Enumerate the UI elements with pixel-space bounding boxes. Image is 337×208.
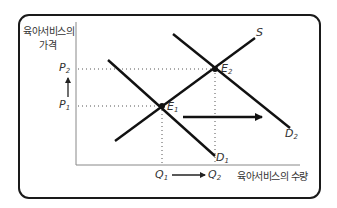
price-label-p1: P1: [59, 98, 70, 112]
equilibrium-label-e1: E1: [167, 100, 178, 114]
quantity-label-q2: Q2: [208, 168, 221, 182]
y-axis-label-line1: 육아서비스의: [23, 23, 74, 38]
equilibrium-label-e2: E2: [221, 62, 232, 76]
demand-curve-d1-label: D1: [216, 151, 229, 165]
supply-curve: [115, 38, 255, 141]
demand-curve-d2-label: D2: [285, 127, 298, 141]
y-axis-label-line2: 가격: [39, 37, 56, 52]
price-label-p2: P2: [59, 61, 70, 75]
supply-curve-label: S: [256, 26, 263, 39]
equilibrium-point-e1: [159, 103, 165, 109]
demand-curve-d2: [173, 34, 290, 128]
x-axis-label: 육아서비스의 수량: [237, 168, 308, 183]
supply-demand-diagram: 육아서비스의 가격 육아서비스의 수량 P2 P1 Q1 Q2 S D1 D2 …: [0, 0, 337, 208]
quantity-label-q1: Q1: [155, 168, 168, 182]
equilibrium-point-e2: [212, 66, 218, 72]
